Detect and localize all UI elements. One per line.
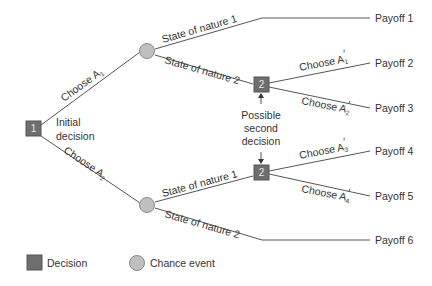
legend: Decision Chance event — [27, 255, 215, 271]
label-choose-a1: Choose A1 — [58, 65, 106, 105]
decision-tree-diagram: 1 Initial decision 2 2 Possible second d… — [0, 0, 432, 286]
decision-node-2-top[interactable]: 2 — [254, 77, 269, 92]
arrow-down-head — [258, 159, 264, 164]
label-choose-a2: Choose A2 — [61, 144, 109, 182]
label-choose-a3-prime: Choose A3′ — [297, 135, 349, 162]
legend-chance-icon — [130, 256, 145, 271]
legend-decision-icon — [27, 255, 42, 270]
label-choose-a1-prime: Choose A1′ — [297, 47, 349, 74]
label-choose-a4-prime: Choose A4′ — [300, 177, 352, 204]
decision-node-1[interactable]: 1 — [26, 121, 41, 136]
arrow-up-head — [258, 93, 264, 98]
annotation-line-2: second — [244, 122, 278, 134]
chance-node-bottom[interactable] — [140, 198, 155, 213]
payoff-5: Payoff 5 — [375, 190, 413, 202]
chance-node-top[interactable] — [140, 44, 155, 59]
label-state2-top: State of nature 2 — [163, 53, 241, 86]
tree-edges — [41, 18, 370, 240]
legend-decision-label: Decision — [47, 257, 87, 269]
edge-choose-a1 — [41, 52, 140, 125]
initial-decision-label-2: decision — [56, 130, 95, 142]
payoff-6: Payoff 6 — [375, 234, 413, 246]
decision-node-number: 2 — [259, 79, 265, 90]
payoff-4: Payoff 4 — [375, 145, 413, 157]
payoff-1: Payoff 1 — [375, 12, 413, 24]
payoff-3: Payoff 3 — [375, 102, 413, 114]
annotation-line-3: decision — [242, 135, 281, 147]
decision-node-number: 2 — [259, 167, 265, 178]
annotation-line-1: Possible — [241, 109, 281, 121]
payoff-2: Payoff 2 — [375, 57, 413, 69]
legend-chance-label: Chance event — [150, 257, 215, 269]
decision-node-2-bottom[interactable]: 2 — [254, 165, 269, 180]
initial-decision-label-1: Initial — [56, 116, 81, 128]
decision-node-number: 1 — [31, 123, 37, 134]
label-state2-bottom: State of nature 2 — [163, 207, 241, 240]
label-choose-a2-prime: Choose A2′ — [300, 89, 352, 116]
